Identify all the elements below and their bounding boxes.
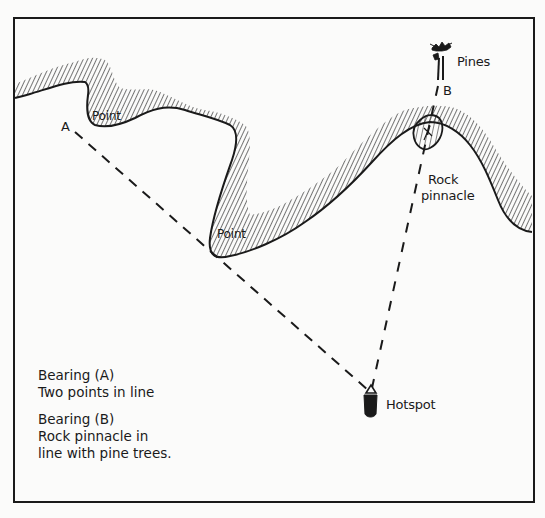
- legend-bearing-a-title: Bearing (A): [38, 367, 172, 384]
- legend-bearing-a-desc: Two points in line: [38, 384, 172, 401]
- pine-trees-icon: [430, 42, 452, 80]
- point-label-1: Point: [92, 108, 121, 124]
- coastline: [15, 58, 532, 257]
- legend-bearing-b: Bearing (B) Rock pinnacle in line with p…: [38, 411, 172, 462]
- legend-bearing-a: Bearing (A) Two points in line: [38, 367, 172, 401]
- bearing-a-line: [75, 132, 368, 390]
- pinnacle-label: pinnacle: [421, 188, 474, 204]
- pines-label: Pines: [457, 54, 490, 70]
- legend-bearing-b-title: Bearing (B): [38, 411, 172, 428]
- point-label-2: Point: [217, 226, 246, 242]
- boat-icon: [364, 385, 377, 417]
- hotspot-label: Hotspot: [386, 397, 436, 413]
- rock-label: Rock: [428, 172, 458, 188]
- legend-bearing-b-line2: line with pine trees.: [38, 445, 172, 462]
- legend-bearing-b-line1: Rock pinnacle in: [38, 428, 172, 445]
- legend: Bearing (A) Two points in line Bearing (…: [38, 367, 172, 472]
- mark-b-label: B: [443, 83, 452, 99]
- mark-a-label: A: [61, 119, 70, 135]
- coastline-hatching: [15, 58, 532, 257]
